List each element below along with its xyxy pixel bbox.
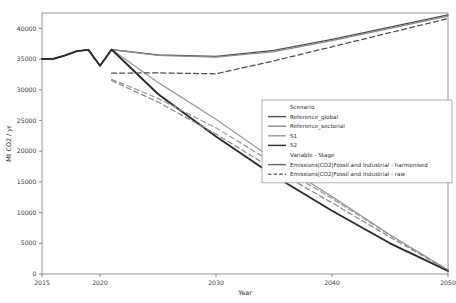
x-tick-label-2040: 2040 [324, 279, 340, 286]
legend-group-title-scenario: Scenario [290, 104, 315, 110]
legend-label-s2: S2 [290, 142, 297, 148]
y-tick-label-20000: 20000 [17, 147, 37, 154]
legend-group-title-variable-stage: Variable - Stage [290, 152, 335, 159]
y-tick-label-0: 0 [33, 270, 37, 277]
legend-label-reference-sectorial: Reference_sectorial [290, 123, 345, 130]
y-tick-label-40000: 40000 [17, 25, 37, 32]
emissions-line-chart: 0500010000150002000025000300003500040000… [0, 0, 456, 303]
x-axis-title: Year [237, 289, 252, 297]
y-tick-label-15000: 15000 [17, 178, 37, 185]
x-tick-label-2030: 2030 [208, 279, 224, 286]
y-axis-title: Mt CO2 / yr [5, 125, 13, 162]
y-tick-label-35000: 35000 [17, 55, 37, 62]
x-tick-label-2020: 2020 [92, 279, 108, 286]
y-tick-label-5000: 5000 [21, 239, 37, 246]
legend-label-dashed: Emissions|CO2|Fossil and Industrial - ra… [290, 171, 405, 178]
chart-generated-layer: 0500010000150002000025000300003500040000… [5, 13, 456, 297]
x-tick-label-2015: 2015 [34, 279, 50, 286]
y-tick-label-10000: 10000 [17, 209, 37, 216]
legend-label-reference-global: Reference_global [290, 114, 338, 121]
y-tick-label-25000: 25000 [17, 117, 37, 124]
legend-label-s1: S1 [290, 133, 298, 139]
x-tick-label-2050: 2050 [440, 279, 456, 286]
legend-label-solid: Emissions|CO2|Fossil and Industrial - ha… [290, 162, 428, 169]
y-tick-label-30000: 30000 [17, 86, 37, 93]
chart-container: 0500010000150002000025000300003500040000… [0, 0, 456, 303]
